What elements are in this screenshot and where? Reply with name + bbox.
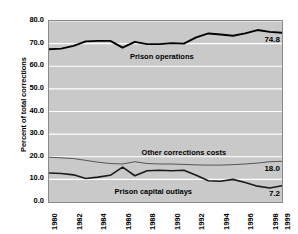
series-line-other-corrections-costs (49, 157, 282, 165)
x-tick-label: 1986 (125, 213, 133, 230)
x-tick-label: 1984 (100, 213, 108, 230)
plot-area: Prison operations 74.8 Other corrections… (48, 20, 283, 203)
y-tick-label: 60.0 (8, 61, 44, 69)
y-tick-label: 80.0 (8, 16, 44, 24)
x-tick-label: 1996 (247, 213, 255, 230)
series-value-prison-operations: 74.8 (264, 35, 280, 44)
y-tick-label: 50.0 (8, 84, 44, 92)
series-value-other-corrections-costs: 18.0 (264, 164, 280, 173)
series-line-prison-operations (49, 30, 282, 49)
y-tick-label: 20.0 (8, 152, 44, 160)
chart-container: Percent of total corrections 0.010.020.0… (0, 0, 298, 234)
x-axis-tick-labels: 1980198219841986198819901992199419961998… (48, 204, 283, 234)
y-tick-label: 10.0 (8, 174, 44, 182)
series-label-prison-capital-outlays: Prison capital outlays (114, 187, 192, 196)
x-tick-label: 1988 (149, 213, 157, 230)
y-tick-label: 70.0 (8, 39, 44, 47)
x-tick-label: 1982 (76, 213, 84, 230)
plot-svg (49, 21, 282, 202)
y-tick-label: 40.0 (8, 107, 44, 115)
x-tick-label: 1994 (223, 213, 231, 230)
series-label-prison-operations: Prison operations (130, 52, 194, 61)
series-line-prison-capital-outlays (49, 167, 282, 188)
x-tick-label: 1992 (198, 213, 206, 230)
x-tick-label: 1980 (51, 213, 59, 230)
series-label-other-corrections-costs: Other corrections costs (142, 148, 227, 157)
y-axis-tick-labels: 0.010.020.030.040.050.060.070.080.0 (8, 16, 44, 206)
y-tick-label: 30.0 (8, 129, 44, 137)
series-value-prison-capital-outlays: 7.2 (269, 189, 280, 198)
x-tick-label: 1999 (284, 213, 292, 230)
x-tick-label: 1990 (174, 213, 182, 230)
x-tick-label: 1998 (272, 213, 280, 230)
y-tick-label: 0.0 (8, 197, 44, 205)
